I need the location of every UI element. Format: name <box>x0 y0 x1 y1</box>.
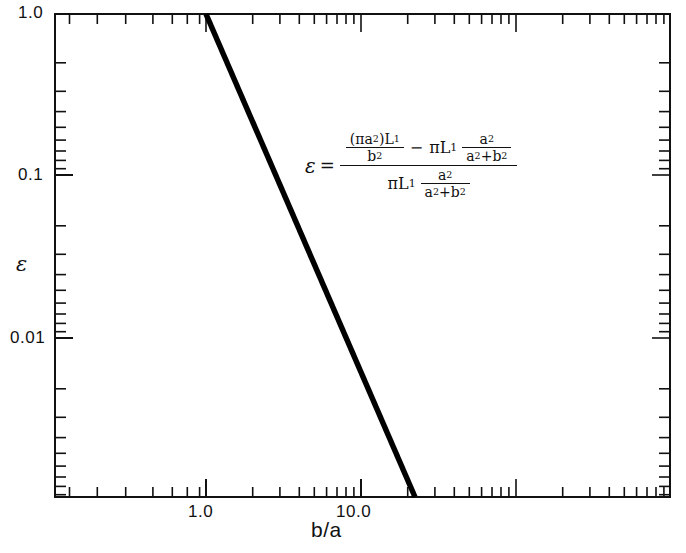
equation-outer-denominator: πL1 a2 a2+b2 <box>340 165 518 200</box>
plot-canvas <box>0 0 686 553</box>
epsilon-equation-annotation: ε = (πa2)L1 b2 − πL1 <box>305 131 517 200</box>
term2-L-base: L <box>440 138 451 157</box>
y-tick-label-1: 1.0 <box>18 3 43 23</box>
term2-num-a-base: a <box>480 131 488 147</box>
log-log-chart-figure: 1.0 0.1 0.01 1.0 10.0 ε b/a ε = (πa2)L1 … <box>0 0 686 553</box>
term1-a-base: a <box>365 131 373 147</box>
equation-term2-numerator: a2 <box>476 131 498 147</box>
equation-denominator-term: πL1 a2 a2+b2 <box>387 167 469 200</box>
equation-lhs-epsilon: ε <box>305 154 320 178</box>
equation-equals-sign: = <box>320 155 340 176</box>
equation-denominator-fraction-numerator: a2 <box>434 167 456 183</box>
equation-term2-fraction: a2 a2+b2 <box>462 131 511 164</box>
right-axis-ticks <box>652 14 670 495</box>
denominator-pi-symbol: π <box>387 174 398 193</box>
equation-denominator-fraction: a2 a2+b2 <box>421 167 470 200</box>
equation-term1-denominator: b2 <box>346 147 404 164</box>
denominator-den-plus: + <box>439 184 451 200</box>
top-axis-ticks <box>70 14 664 32</box>
data-series-epsilon <box>206 14 415 497</box>
y-axis-minor-ticks <box>55 63 66 495</box>
plot-frame <box>55 14 670 497</box>
term1-pi-symbol: π <box>355 131 364 147</box>
equation-denominator-fraction-denominator: a2+b2 <box>421 183 470 200</box>
equation-term2: πL1 a2 a2+b2 <box>429 131 511 164</box>
term1-L-base: L <box>384 131 393 147</box>
term2-pi-symbol: π <box>429 138 440 157</box>
denominator-den-a-base: a <box>425 184 433 200</box>
y-axis-title: ε <box>16 252 28 276</box>
equation-outer-numerator: (πa2)L1 b2 − πL1 a2 a2+b2 <box>340 131 518 165</box>
denominator-L-base: L <box>398 174 409 193</box>
y-tick-label-001: 0.01 <box>10 328 45 348</box>
term2-den-b-base: b <box>492 148 501 164</box>
y-tick-label-01: 0.1 <box>18 165 43 185</box>
equation-minus-operator: − <box>404 138 429 157</box>
term2-den-plus: + <box>481 148 493 164</box>
equation-term2-denominator: a2+b2 <box>462 147 511 164</box>
equation-outer-fraction: (πa2)L1 b2 − πL1 a2 a2+b2 <box>340 131 518 200</box>
x-axis-title: b/a <box>311 518 342 542</box>
x-tick-label-1: 1.0 <box>188 502 213 522</box>
equation-term1-fraction: (πa2)L1 b2 <box>346 131 404 164</box>
term1-b-base: b <box>367 148 376 164</box>
denominator-den-b-base: b <box>451 184 460 200</box>
equation-term1-numerator: (πa2)L1 <box>346 131 404 147</box>
term2-den-a-base: a <box>466 148 474 164</box>
denominator-num-a-base: a <box>438 167 446 183</box>
x-axis-minor-ticks <box>70 479 664 497</box>
